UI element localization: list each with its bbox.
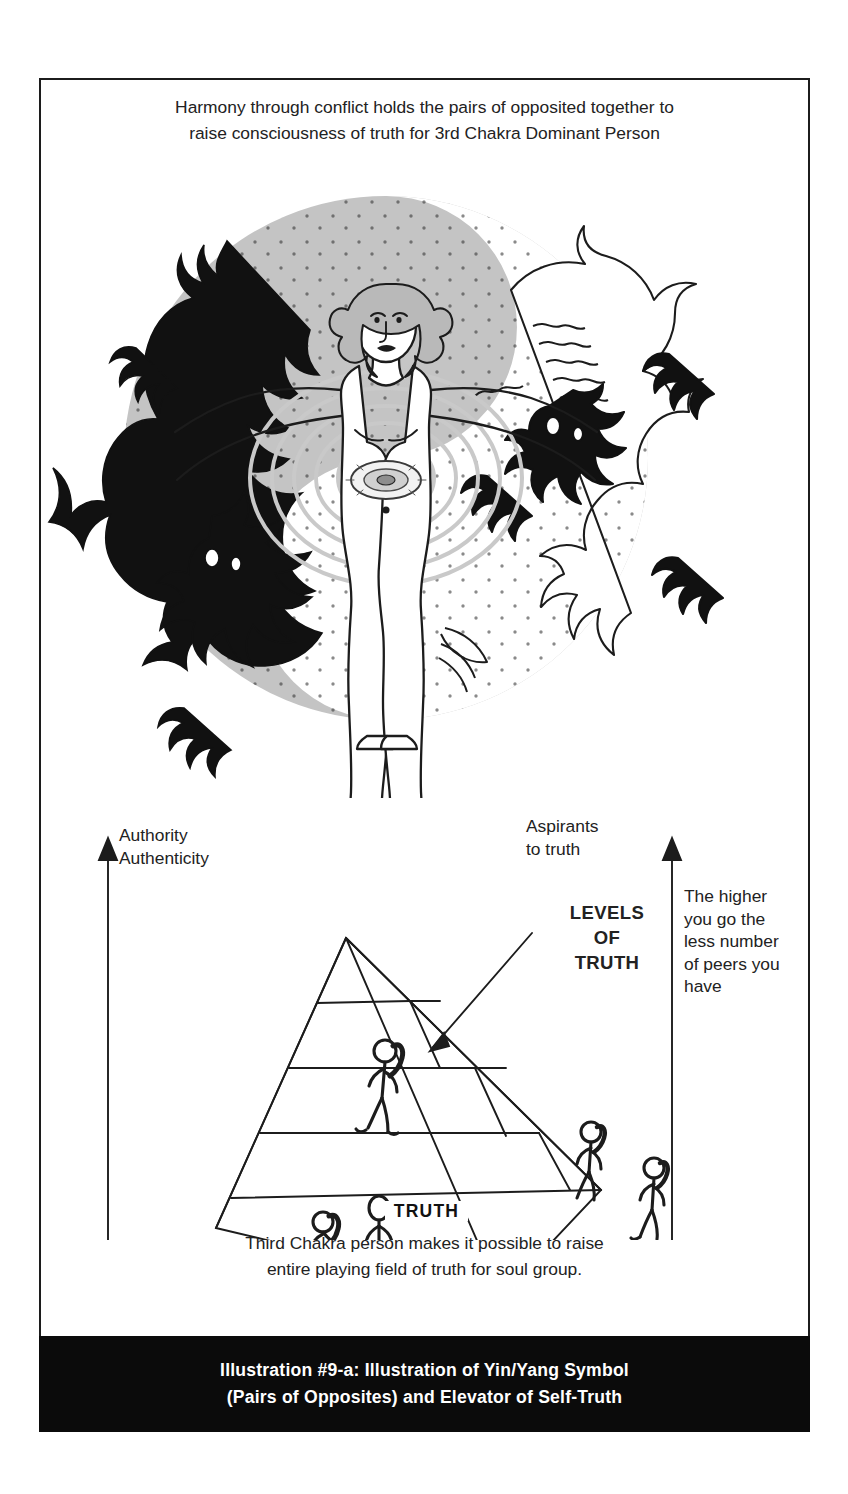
white-dragon-eye-2 (573, 427, 583, 441)
aspirants-line-2: to truth (526, 838, 599, 861)
higher-line-4: of peers you (684, 953, 802, 976)
dragon-eye (205, 549, 219, 567)
illustration-caption-bar: Illustration #9-a: Illustration of Yin/Y… (39, 1336, 810, 1432)
truth-baseline-text: TRUTH (385, 1201, 468, 1221)
stick-figure-tier4-b (631, 1158, 668, 1239)
pyramid-wireframe (216, 938, 601, 1240)
authority-label: Authority Authenticity (119, 824, 209, 869)
higher-line-5: have (684, 975, 802, 998)
header-line-1: Harmony through conflict holds the pairs… (41, 94, 808, 120)
caption-line-2: (Pairs of Opposites) and Elevator of Sel… (227, 1384, 623, 1411)
higher-line-2: you go the (684, 908, 802, 931)
yin-yang-artwork (41, 158, 812, 798)
illustration-frame: Harmony through conflict holds the pairs… (39, 78, 810, 1432)
aspirants-leader-line (430, 933, 532, 1051)
header-caption: Harmony through conflict holds the pairs… (41, 94, 808, 146)
peers-note-label: The higher you go the less number of pee… (684, 885, 802, 998)
authority-axis-arrow (99, 838, 117, 1240)
truth-baseline-label: TRUTH (41, 1201, 812, 1222)
footer-line-1: Third Chakra person makes it possible to… (41, 1230, 808, 1256)
stick-figure-tier3 (356, 1040, 403, 1134)
aspirants-line-1: Aspirants (526, 815, 599, 838)
levels-line-2: OF (541, 925, 673, 950)
authority-line-1: Authority (119, 824, 209, 847)
higher-line-3: less number (684, 930, 802, 953)
white-dragon-eye (546, 417, 560, 435)
footer-caption: Third Chakra person makes it possible to… (41, 1230, 808, 1282)
header-line-2: raise consciousness of truth for 3rd Cha… (41, 120, 808, 146)
higher-line-1: The higher (684, 885, 802, 908)
aspirants-label: Aspirants to truth (526, 815, 599, 860)
levels-line-3: TRUTH (541, 950, 673, 975)
footer-line-2: entire playing field of truth for soul g… (41, 1256, 808, 1282)
caption-line-1: Illustration #9-a: Illustration of Yin/Y… (220, 1357, 629, 1384)
levels-line-1: LEVELS (541, 900, 673, 925)
authority-line-2: Authenticity (119, 847, 209, 870)
yin-yang-svg (41, 158, 812, 798)
levels-of-truth-label: LEVELS OF TRUTH (541, 900, 673, 975)
dragon-eye-2 (231, 557, 241, 571)
